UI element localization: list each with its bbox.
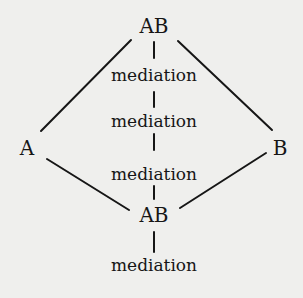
mediation-label-3: mediation xyxy=(111,166,197,183)
node-bottom-ab: AB xyxy=(139,205,168,225)
mediation-diagram: AB A B AB mediation mediation mediation … xyxy=(0,0,303,298)
mediation-label-2: mediation xyxy=(111,113,197,130)
mediation-label-1: mediation xyxy=(111,67,197,84)
node-b: B xyxy=(273,138,288,158)
diagram-lines xyxy=(0,0,303,298)
node-a: A xyxy=(20,138,34,158)
node-top-ab: AB xyxy=(139,16,168,36)
mediation-label-4: mediation xyxy=(111,257,197,274)
